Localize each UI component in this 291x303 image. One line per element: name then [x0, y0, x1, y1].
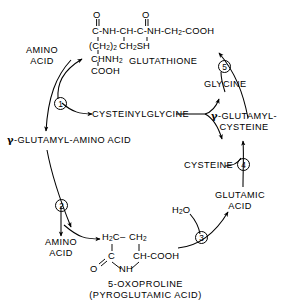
glutathione-chain-acid: COOH: [91, 66, 120, 76]
cysteinylglycine-label: CYSTEINYLGLYCINE: [92, 109, 189, 119]
glutathione-oxygen-left: O: [93, 10, 101, 20]
glycine-label: GLYCINE: [204, 79, 246, 89]
glutathione-oxygen-right: O: [142, 10, 150, 20]
arrow-gamma-glutamyl-amino-acid-to-oxoproline-curve: [47, 150, 71, 227]
glutamic-acid-line1: GLUTAMIC: [207, 190, 273, 200]
oxoproline-bottom-nh: NH: [119, 264, 133, 274]
step-number-2[interactable]: 2: [55, 199, 68, 212]
water-label: H2O: [172, 205, 190, 216]
glutathione-label: GLUTATHIONE: [129, 56, 197, 66]
amino-acid-top-line2: ACID: [16, 56, 68, 66]
oxoproline-mid-left: C: [108, 251, 115, 261]
oxoproline-caption-line2: (PYROGLUTAMIC ACID): [0, 290, 291, 302]
oxoproline-bottom-oxygen: O: [90, 264, 98, 274]
gamma-glutamyl-cysteine-text: -GLUTAMYL-: [218, 111, 277, 121]
glutathione-side-left-text: (CH: [89, 40, 106, 51]
gamma-symbol-1: γ: [7, 134, 14, 145]
glutathione-chain-amine-sub: 2: [119, 57, 123, 64]
water-h: H: [172, 204, 179, 215]
gamma-glutamyl-amino-acid-text: -GLUTAMYL-AMINO ACID: [14, 135, 131, 145]
gamma-glutamyl-cysteine-line1: γ-GLUTAMYL-: [211, 110, 277, 121]
glutamic-acid-line2: ACID: [207, 201, 273, 211]
glutathione-backbone: C-NH-CH-C-NH-CH2-COOH: [92, 26, 214, 37]
oxoproline-top-left: H2C: [102, 232, 120, 243]
oxoproline-mid-right: CH-COOH: [133, 251, 179, 261]
step-number-5[interactable]: 5: [218, 60, 231, 73]
glutathione-backbone-text: C-NH-CH-C-NH-CH: [92, 25, 178, 36]
glutathione-side-left-sub2: 2: [113, 44, 117, 51]
amino-acid-bottom-line2: ACID: [35, 248, 87, 258]
gamma-glutamyl-cycle-diagram: O O C-NH-CH-C-NH-CH2-COOH (CH2)2 CH2SH C…: [0, 0, 291, 303]
step-number-3[interactable]: 3: [195, 231, 208, 244]
glutathione-backbone-tail: -COOH: [182, 25, 214, 36]
amino-acid-bottom-line1: AMINO: [35, 237, 87, 247]
amino-acid-top-line1: AMINO: [16, 45, 68, 55]
oxoproline-top-left-h: H: [102, 231, 109, 242]
gamma-glutamyl-amino-acid-label: γ-GLUTAMYL-AMINO ACID: [7, 134, 131, 145]
step-number-1[interactable]: 1: [54, 97, 67, 110]
glutathione-chain-amine-text: CHNH: [91, 53, 119, 64]
cysteine-label: CYSTEINE: [184, 160, 233, 170]
oxoproline-dash: –: [120, 232, 125, 242]
water-o: O: [183, 204, 191, 215]
glutathione-side-right: CH2SH: [119, 41, 150, 52]
oxoproline-top-left-c: C: [113, 231, 120, 242]
step-number-4[interactable]: 4: [237, 158, 250, 171]
oxoproline-top-right-text: CH: [129, 231, 143, 242]
oxoproline-top-right: CH2: [129, 232, 147, 243]
gamma-glutamyl-cysteine-line2: CYSTEINE: [208, 122, 280, 132]
glutathione-side-right-text: CH: [119, 40, 133, 51]
glutathione-side-left: (CH2)2: [89, 41, 117, 52]
gamma-symbol-2: γ: [211, 110, 218, 121]
oxoproline-caption-line1: 5-OXOPROLINE: [0, 279, 291, 291]
glutathione-chain-amine: CHNH2: [91, 54, 123, 65]
oxoproline-top-right-sub: 2: [143, 235, 147, 242]
glutathione-side-right-tail: SH: [137, 40, 150, 51]
